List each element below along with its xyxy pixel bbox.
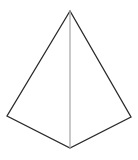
figure-background bbox=[0, 0, 138, 160]
pyramid-svg bbox=[0, 0, 138, 160]
pyramid-figure-canvas bbox=[0, 0, 138, 160]
